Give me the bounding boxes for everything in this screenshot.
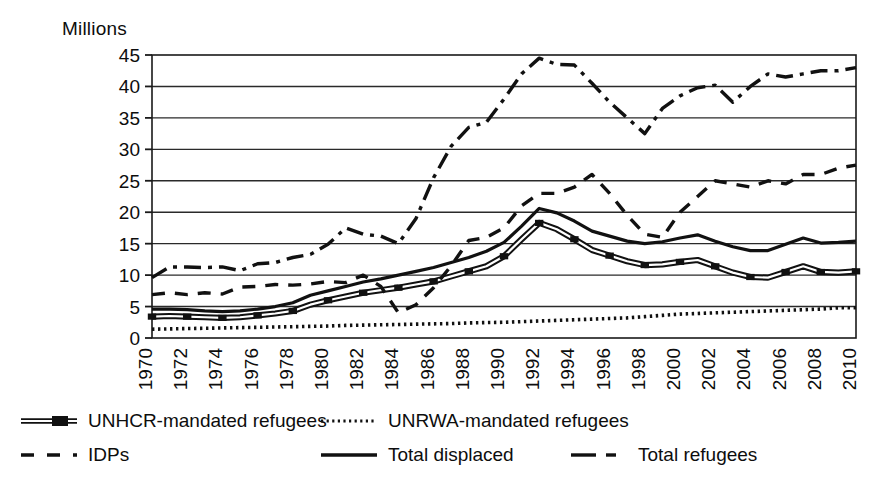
y-tick-label: 0 bbox=[129, 328, 140, 349]
chart-canvas: 051015202530354045 197019721974197619781… bbox=[0, 0, 878, 404]
series-total-displaced bbox=[152, 208, 856, 311]
series-idps bbox=[152, 165, 856, 313]
legend-label-unhcr: UNHCR-mandated refugees bbox=[88, 410, 327, 432]
legend: UNHCR-mandated refugees UNRWA-mandated r… bbox=[20, 404, 870, 472]
x-tick-label: 2004 bbox=[733, 348, 754, 391]
x-tick-label: 1972 bbox=[170, 348, 191, 390]
x-tick-label: 2000 bbox=[663, 348, 684, 390]
x-tick-label: 1974 bbox=[205, 348, 226, 391]
y-tick-label: 5 bbox=[129, 297, 140, 318]
x-tick-label: 1988 bbox=[452, 348, 473, 390]
y-tick-label: 15 bbox=[119, 234, 140, 255]
x-tick-label: 2010 bbox=[839, 348, 860, 390]
y-tick-label: 25 bbox=[119, 171, 140, 192]
gridlines bbox=[152, 86, 856, 306]
y-tick-label: 30 bbox=[119, 139, 140, 160]
legend-item-total-refugees: Total refugees bbox=[570, 444, 757, 466]
legend-item-unhcr: UNHCR-mandated refugees bbox=[20, 410, 320, 432]
series-lines bbox=[148, 58, 860, 329]
total-refugees-dashdot-line-icon bbox=[570, 447, 628, 463]
x-tick-label: 1990 bbox=[487, 348, 508, 390]
x-tick-label: 1970 bbox=[135, 348, 156, 390]
series-unrwa-mandated-refugees bbox=[152, 308, 856, 329]
y-tick-label: 35 bbox=[119, 108, 140, 129]
x-tick-label: 1986 bbox=[417, 348, 438, 390]
unrwa-dotted-line-icon bbox=[320, 413, 378, 429]
x-tick-label: 1984 bbox=[381, 348, 402, 391]
x-tick-label: 1996 bbox=[593, 348, 614, 390]
x-tick-label: 1994 bbox=[557, 348, 578, 391]
total-displaced-solid-line-icon bbox=[320, 447, 378, 463]
x-tick-labels: 1970197219741976197819801982198419861988… bbox=[135, 348, 860, 391]
x-tick-label: 2008 bbox=[804, 348, 825, 390]
unhcr-line-marker-icon bbox=[20, 413, 78, 429]
legend-label-idps: IDPs bbox=[88, 444, 129, 466]
idps-dashed-line-icon bbox=[20, 447, 78, 463]
series-total-refugees bbox=[152, 58, 856, 277]
legend-row-1: UNHCR-mandated refugees UNRWA-mandated r… bbox=[20, 404, 870, 438]
y-tick-label: 10 bbox=[119, 265, 140, 286]
legend-label-total-refugees: Total refugees bbox=[638, 444, 757, 466]
legend-label-unrwa: UNRWA-mandated refugees bbox=[388, 410, 629, 432]
legend-item-idps: IDPs bbox=[20, 444, 320, 466]
y-tick-label: 45 bbox=[119, 45, 140, 66]
refugee-displacement-chart: Millions 051015202530354045 197019721974… bbox=[0, 0, 878, 495]
y-tick-labels: 051015202530354045 bbox=[119, 45, 140, 349]
x-tick-label: 1976 bbox=[241, 348, 262, 390]
legend-row-2: IDPs Total displaced Total refugees bbox=[20, 438, 870, 472]
y-tick-label: 20 bbox=[119, 202, 140, 223]
x-tick-label: 2006 bbox=[769, 348, 790, 390]
x-tick-label: 1992 bbox=[522, 348, 543, 390]
y-tick-label: 40 bbox=[119, 76, 140, 97]
legend-label-total-displaced: Total displaced bbox=[388, 444, 514, 466]
series-unhcr-mandated-refugees bbox=[148, 220, 860, 321]
legend-item-unrwa: UNRWA-mandated refugees bbox=[320, 410, 629, 432]
plot-frame bbox=[152, 55, 856, 338]
x-tick-label: 2002 bbox=[698, 348, 719, 390]
y-tick-marks bbox=[145, 55, 152, 338]
legend-item-total-displaced: Total displaced bbox=[320, 444, 570, 466]
x-tick-label: 1978 bbox=[276, 348, 297, 390]
x-tick-label: 1998 bbox=[628, 348, 649, 390]
x-tick-label: 1982 bbox=[346, 348, 367, 390]
x-tick-label: 1980 bbox=[311, 348, 332, 390]
